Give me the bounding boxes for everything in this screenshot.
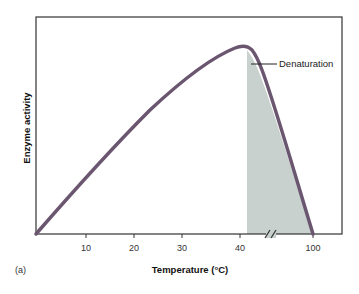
- x-tick-30: 30: [177, 243, 187, 253]
- enzyme-activity-chart: Denaturation 10 20 30 40 100 Temperature…: [0, 0, 359, 294]
- x-tick-100: 100: [305, 243, 320, 253]
- y-axis-title: Enzyme activity: [21, 92, 32, 164]
- axis-break-icon: [265, 230, 276, 238]
- denaturation-label: Denaturation: [279, 58, 333, 69]
- x-tick-40: 40: [235, 243, 245, 253]
- x-tick-10: 10: [81, 243, 91, 253]
- x-tick-20: 20: [129, 243, 139, 253]
- panel-label: (a): [15, 265, 26, 275]
- x-axis-title: Temperature (°C): [152, 264, 228, 275]
- x-axis-ticks: [86, 234, 313, 238]
